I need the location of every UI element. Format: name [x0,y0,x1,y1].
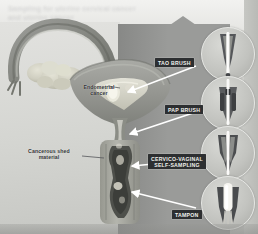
device-circle-tampon[interactable] [201,176,255,230]
tao-brush-illustration [202,28,254,80]
device-circle-cervico-vaginal-self-sampling[interactable] [201,126,255,180]
pap-brush-illustration [202,77,254,129]
device-circle-tao-brush[interactable] [201,27,255,81]
label-cancerous-shed-material: Cancerous shed material [18,148,80,161]
device-label-tampon[interactable]: TAMPON [172,210,202,219]
vaginal-canal [100,140,140,224]
cervico-vaginal-swab-illustration [202,127,254,179]
tampon-illustration [202,177,254,229]
device-label-pap-brush[interactable]: PAP BRUSH [165,105,203,114]
device-label-cervico-vaginal-self-sampling[interactable]: CERVICO-VAGINAL SELF-SAMPLING [148,154,206,169]
figure-container: Sampling for uterine cervical cancer and… [0,0,258,234]
device-label-tao-brush[interactable]: TAO BRUSH [155,58,194,67]
label-endometrial-cancer: Endometrial cancer [76,84,122,97]
cervix [112,118,128,142]
bottom-edge-strip [0,224,258,234]
device-circle-pap-brush[interactable] [201,76,255,130]
